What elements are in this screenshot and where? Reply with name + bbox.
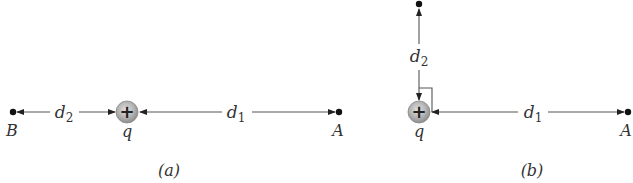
caption-b: (b) — [521, 161, 544, 180]
distance-label-d2: d2 — [55, 102, 74, 125]
point-label-a: A — [330, 121, 344, 140]
charge-q: + — [408, 101, 430, 123]
distance-label-d2: d2 — [410, 46, 429, 69]
charge-q: + — [116, 101, 138, 123]
distance-label-d1: d1 — [227, 102, 246, 125]
point-a-dot — [336, 109, 342, 115]
point-a-dot — [625, 109, 631, 115]
caption-a: (a) — [158, 161, 180, 180]
point-b-dot — [10, 109, 16, 115]
distance-label-d1: d1 — [524, 102, 543, 125]
panel-a: + d2 d1 B q A (a) — [5, 101, 344, 180]
plus-sign-icon: + — [119, 101, 134, 122]
plus-sign-icon: + — [411, 101, 426, 122]
panel-b: + d2 d1 q A (b) — [408, 1, 632, 180]
top-point-dot — [416, 1, 422, 7]
charge-label-q: q — [414, 122, 424, 141]
electric-charge-diagram: + d2 d1 B q A (a) + d2 d1 q A (b) — [0, 0, 633, 183]
point-label-a: A — [618, 121, 632, 140]
charge-label-q: q — [122, 122, 132, 141]
point-label-b: B — [5, 121, 18, 140]
